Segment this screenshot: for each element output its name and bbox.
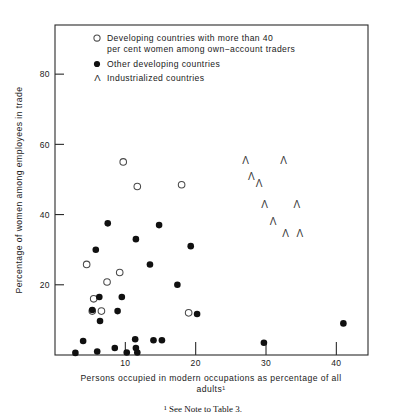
data-point xyxy=(185,310,192,317)
y-tick-label-60: 60 xyxy=(40,140,50,150)
data-point xyxy=(98,308,105,315)
data-point: Λ xyxy=(248,171,255,182)
data-point xyxy=(187,243,194,250)
data-point: Λ xyxy=(261,199,268,210)
data-point xyxy=(90,296,97,303)
legend-label-developing-high-women-line1: Developing countries with more than 40 xyxy=(107,33,273,43)
data-point: Λ xyxy=(270,216,277,227)
legend-marker-triangle-icon: Λ xyxy=(94,72,101,83)
data-point xyxy=(133,236,140,243)
figure-footnote: ¹ See Note to Table 3. xyxy=(164,404,242,414)
x-axis-title-line2: adults¹ xyxy=(197,384,226,394)
data-point xyxy=(92,246,99,253)
data-point xyxy=(174,281,181,288)
data-point xyxy=(104,279,111,286)
figure-container: 20406080 10203040 Percentage of women am… xyxy=(0,0,407,418)
legend-marker-filled-circle xyxy=(94,61,100,67)
data-point: Λ xyxy=(296,228,303,239)
data-point xyxy=(89,307,96,314)
data-point xyxy=(96,294,103,301)
data-point xyxy=(94,348,101,355)
x-tick-label-30: 30 xyxy=(261,358,271,368)
x-tick-label-20: 20 xyxy=(191,358,201,368)
data-point xyxy=(159,337,166,344)
x-tick-label-40: 40 xyxy=(331,358,341,368)
data-point xyxy=(123,349,130,356)
data-point xyxy=(104,220,111,227)
data-point: Λ xyxy=(280,155,287,166)
data-point: Λ xyxy=(242,155,249,166)
data-point: Λ xyxy=(256,178,263,189)
data-point xyxy=(80,338,87,345)
data-point xyxy=(194,311,201,318)
legend-label-other-developing: Other developing countries xyxy=(107,59,220,69)
y-tick-label-20: 20 xyxy=(40,280,50,290)
legend-marker-open-circle xyxy=(94,35,100,41)
data-point xyxy=(132,336,139,343)
data-point xyxy=(156,222,163,229)
data-point xyxy=(83,261,90,268)
data-point: Λ xyxy=(282,228,289,239)
x-axis-title-line1: Persons occupied in modern occupations a… xyxy=(80,373,341,383)
data-point xyxy=(72,350,79,357)
data-point xyxy=(114,308,121,315)
data-point xyxy=(147,261,154,268)
data-point xyxy=(97,318,104,325)
plot-area-border xyxy=(55,25,368,355)
data-point xyxy=(119,294,126,301)
data-point xyxy=(120,159,127,166)
x-tick-label-10: 10 xyxy=(120,358,130,368)
data-point xyxy=(340,320,347,327)
data-point xyxy=(134,349,141,356)
legend-label-industrialized: Industrialized countries xyxy=(107,73,205,83)
y-axis-title: Percentage of women among employees in t… xyxy=(14,86,24,293)
data-point xyxy=(134,183,141,190)
y-tick-label-80: 80 xyxy=(40,69,50,79)
data-point xyxy=(261,339,268,346)
data-point xyxy=(150,337,157,344)
scatter-chart: 20406080 10203040 Percentage of women am… xyxy=(0,0,407,418)
data-point xyxy=(111,345,118,352)
legend-label-developing-high-women-line2: per cent women among own−account traders xyxy=(107,44,295,54)
y-tick-label-40: 40 xyxy=(40,210,50,220)
data-point xyxy=(178,181,185,188)
data-point: Λ xyxy=(294,199,301,210)
data-point xyxy=(116,269,123,276)
